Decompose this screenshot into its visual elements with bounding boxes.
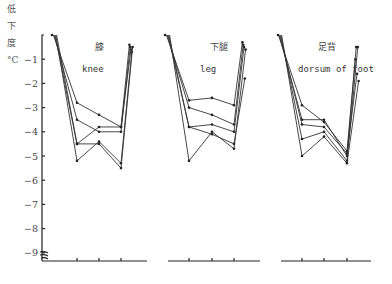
panel-label-en: leg xyxy=(200,64,216,74)
y-tick-label: −1 xyxy=(24,54,38,65)
data-point xyxy=(131,46,134,49)
data-series-line xyxy=(282,35,359,163)
panel-label-cn: 足背 xyxy=(318,41,336,52)
data-point xyxy=(76,160,79,163)
panel-label-cn: 下腿 xyxy=(210,42,228,52)
data-point xyxy=(76,101,79,104)
y-tick-label: −8 xyxy=(24,223,38,234)
data-point xyxy=(301,138,304,141)
data-point xyxy=(356,72,359,75)
data-point xyxy=(243,46,246,49)
panel-label-en: knee xyxy=(82,64,104,74)
chart-panels: 膝knee下腿leg足背dorsum of foot xyxy=(42,34,374,261)
data-point xyxy=(211,97,214,100)
data-point xyxy=(233,131,236,134)
data-point xyxy=(346,162,349,165)
y-tick-label: −6 xyxy=(24,175,38,186)
y-label-char: 度 xyxy=(7,37,16,48)
data-point xyxy=(357,46,360,49)
data-point xyxy=(211,131,214,134)
data-point xyxy=(120,131,123,134)
data-point xyxy=(98,131,101,134)
y-axis-line xyxy=(42,35,44,261)
panel-dorsum-of-foot: 足背dorsum of foot xyxy=(277,34,374,261)
data-point xyxy=(128,43,131,46)
panel-knee: 膝knee xyxy=(42,34,147,261)
data-point xyxy=(98,140,101,143)
data-point xyxy=(323,126,326,129)
y-tick-label: −7 xyxy=(24,199,38,210)
y-tick-label: −9 xyxy=(24,247,38,258)
start-marker xyxy=(164,34,167,37)
data-point xyxy=(244,77,247,80)
data-point xyxy=(301,123,304,126)
data-point xyxy=(120,167,123,170)
data-point xyxy=(233,147,236,150)
data-point xyxy=(301,155,304,158)
y-tick-label: −5 xyxy=(24,151,38,162)
data-series-line xyxy=(279,35,356,156)
data-point xyxy=(188,126,191,129)
data-point xyxy=(301,104,304,107)
data-point xyxy=(323,131,326,134)
y-axis-label: 低下度°C xyxy=(7,3,19,65)
data-point xyxy=(76,143,79,146)
y-tick-label: −2 xyxy=(24,78,38,89)
data-point xyxy=(98,143,101,146)
data-point xyxy=(244,48,247,51)
temperature-drop-chart: 低下度°C −1−2−3−4−5−6−7−8−9 膝knee下腿leg足背dor… xyxy=(0,0,392,284)
data-point xyxy=(188,160,191,163)
data-point xyxy=(323,118,326,121)
panel-label-en: dorsum of foot xyxy=(298,64,374,74)
y-tick-label: −3 xyxy=(24,102,38,113)
data-point xyxy=(120,126,123,129)
data-point xyxy=(233,104,236,107)
data-point xyxy=(211,114,214,117)
data-point xyxy=(211,123,214,126)
y-label-char: °C xyxy=(7,55,19,65)
y-axis: −1−2−3−4−5−6−7−8−9 xyxy=(24,35,48,261)
start-marker xyxy=(51,34,54,37)
data-point xyxy=(241,41,244,44)
data-point xyxy=(76,118,79,121)
y-label-char: 下 xyxy=(7,21,16,31)
panel-leg: 下腿leg xyxy=(164,34,260,261)
data-point xyxy=(188,106,191,109)
data-point xyxy=(188,99,191,102)
data-point xyxy=(323,135,326,138)
data-point xyxy=(357,80,360,83)
data-point xyxy=(98,114,101,117)
y-label-char: 低 xyxy=(7,3,16,14)
panel-label-cn: 膝 xyxy=(95,41,104,52)
data-point xyxy=(242,43,245,46)
y-tick-label: −4 xyxy=(24,126,38,137)
data-point xyxy=(98,126,101,129)
data-point xyxy=(129,46,132,49)
